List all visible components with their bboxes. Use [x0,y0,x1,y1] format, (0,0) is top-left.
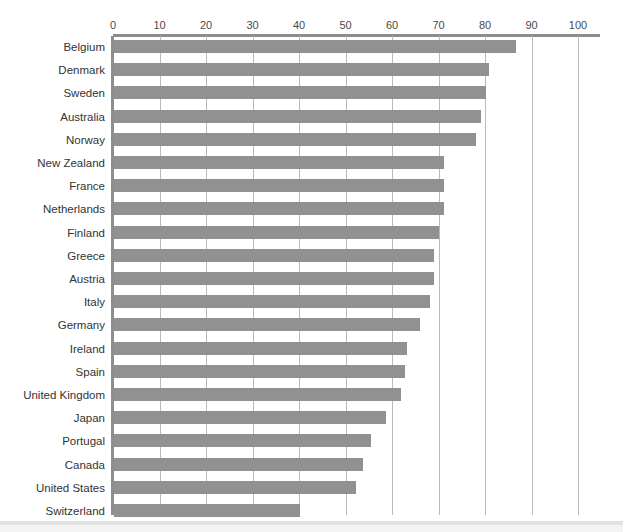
bar-canada [114,458,363,471]
bar-united-states [114,481,356,494]
bar-norway [114,133,476,146]
bar-ireland [114,342,407,355]
bar-switzerland [114,504,300,517]
bar-finland [114,226,439,239]
bar-spain [114,365,405,378]
category-label-canada: Canada [0,459,105,472]
category-label-japan: Japan [0,412,105,425]
category-label-austria: Austria [0,273,105,286]
category-label-ireland: Ireland [0,343,105,356]
bar-netherlands [114,202,444,215]
category-label-germany: Germany [0,319,105,332]
category-label-finland: Finland [0,227,105,240]
category-label-netherlands: Netherlands [0,203,105,216]
category-label-greece: Greece [0,250,105,263]
category-label-france: France [0,180,105,193]
bar-belgium [114,40,516,53]
bar-germany [114,318,420,331]
category-label-new-zealand: New Zealand [0,157,105,170]
category-label-denmark: Denmark [0,64,105,77]
bar-portugal [114,434,371,447]
bar-new-zealand [114,156,444,169]
category-label-norway: Norway [0,134,105,147]
bar-denmark [114,63,489,76]
category-label-portugal: Portugal [0,435,105,448]
footer-band [0,525,623,532]
bar-australia [114,110,481,123]
bar-sweden [114,86,486,99]
category-label-australia: Australia [0,111,105,124]
category-label-united-kingdom: United Kingdom [0,389,105,402]
bar-chart: 0102030405060708090100 BelgiumDenmarkSwe… [0,0,623,532]
category-label-belgium: Belgium [0,41,105,54]
category-label-switzerland: Switzerland [0,505,105,518]
bar-italy [114,295,430,308]
category-label-sweden: Sweden [0,87,105,100]
bar-greece [114,249,434,262]
bar-rows: BelgiumDenmarkSwedenAustraliaNorwayNew Z… [0,0,623,532]
category-label-spain: Spain [0,366,105,379]
bar-austria [114,272,434,285]
category-label-italy: Italy [0,296,105,309]
bar-france [114,179,444,192]
bar-japan [114,411,386,424]
bar-united-kingdom [114,388,401,401]
category-label-united-states: United States [0,482,105,495]
